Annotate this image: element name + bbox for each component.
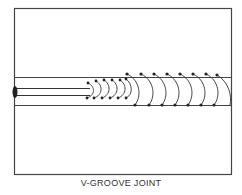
figure-caption: V-GROOVE JOINT xyxy=(0,178,242,188)
v-groove-joint-diagram xyxy=(0,0,242,195)
rod-end-cap xyxy=(13,86,18,98)
fill-weave-pattern xyxy=(127,74,231,105)
root-weave-pattern xyxy=(87,79,131,98)
plate-outline xyxy=(15,9,232,175)
